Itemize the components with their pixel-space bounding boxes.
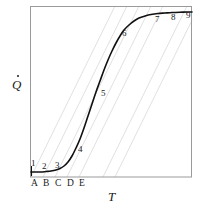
x-tick-label-e: E: [79, 179, 85, 189]
curve-label-4: 4: [78, 145, 83, 154]
curve-label-8: 8: [171, 13, 176, 22]
curve-label-1: 1: [31, 159, 36, 168]
x-tick-label-a: A: [31, 179, 38, 189]
y-axis-title: Q: [12, 74, 28, 94]
x-tick-label-c: C: [55, 179, 61, 189]
construction-line-2: [43, 6, 127, 177]
y-axis-title-text: Q: [12, 78, 21, 91]
construction-line-extra-1: [103, 6, 187, 177]
curve-label-6: 6: [122, 29, 127, 38]
curve-label-3: 3: [55, 161, 60, 170]
x-axis-title: T: [108, 190, 115, 203]
heat-generation-curve: [31, 12, 192, 172]
x-tick-label-d: D: [67, 179, 74, 189]
construction-line-5: [79, 6, 163, 177]
curve-label-9: 9: [186, 11, 191, 20]
plot-frame: [31, 7, 192, 178]
curve-label-5: 5: [101, 89, 106, 98]
x-tick-label-b: B: [43, 179, 49, 189]
thermal-runaway-diagram: ABCDE 123456789 T Q: [0, 0, 203, 213]
curve-label-2: 2: [42, 162, 47, 171]
y-axis-overdot-icon: [17, 75, 19, 77]
curve-label-7: 7: [155, 15, 160, 24]
construction-line-extra-2: [115, 20, 192, 177]
construction-lines-group: [31, 6, 192, 177]
